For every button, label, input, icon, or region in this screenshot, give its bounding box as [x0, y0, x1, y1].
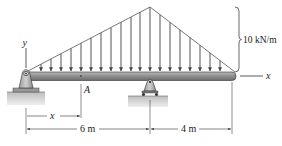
dimension-left-span: 6 m [27, 123, 149, 134]
load-intensity-brace: 10 kN/m [235, 7, 277, 72]
dimension-x: x [27, 110, 80, 121]
dimension-x-label: x [49, 110, 55, 121]
dimension-left-span-label: 6 m [80, 123, 96, 134]
section-a-label: A [83, 84, 91, 95]
beam [24, 72, 236, 81]
load-arrows [41, 7, 220, 71]
x-axis-label: x [265, 70, 271, 81]
x-axis: x [240, 70, 271, 81]
beam-diagram: y 10 kN/m [0, 0, 282, 146]
extension-lines [26, 82, 232, 134]
ground-right [128, 96, 168, 107]
load-intensity-label: 10 kN/m [243, 35, 277, 45]
y-axis: y [22, 37, 28, 68]
y-axis-label: y [22, 37, 28, 48]
dimension-overhang-label: 4 m [181, 123, 197, 134]
roller-support [128, 80, 168, 108]
distributed-load [26, 7, 235, 72]
dimension-overhang: 4 m [151, 123, 231, 134]
section-a: A [81, 84, 91, 118]
point-a-marker [80, 75, 82, 77]
ground-left [7, 92, 45, 105]
